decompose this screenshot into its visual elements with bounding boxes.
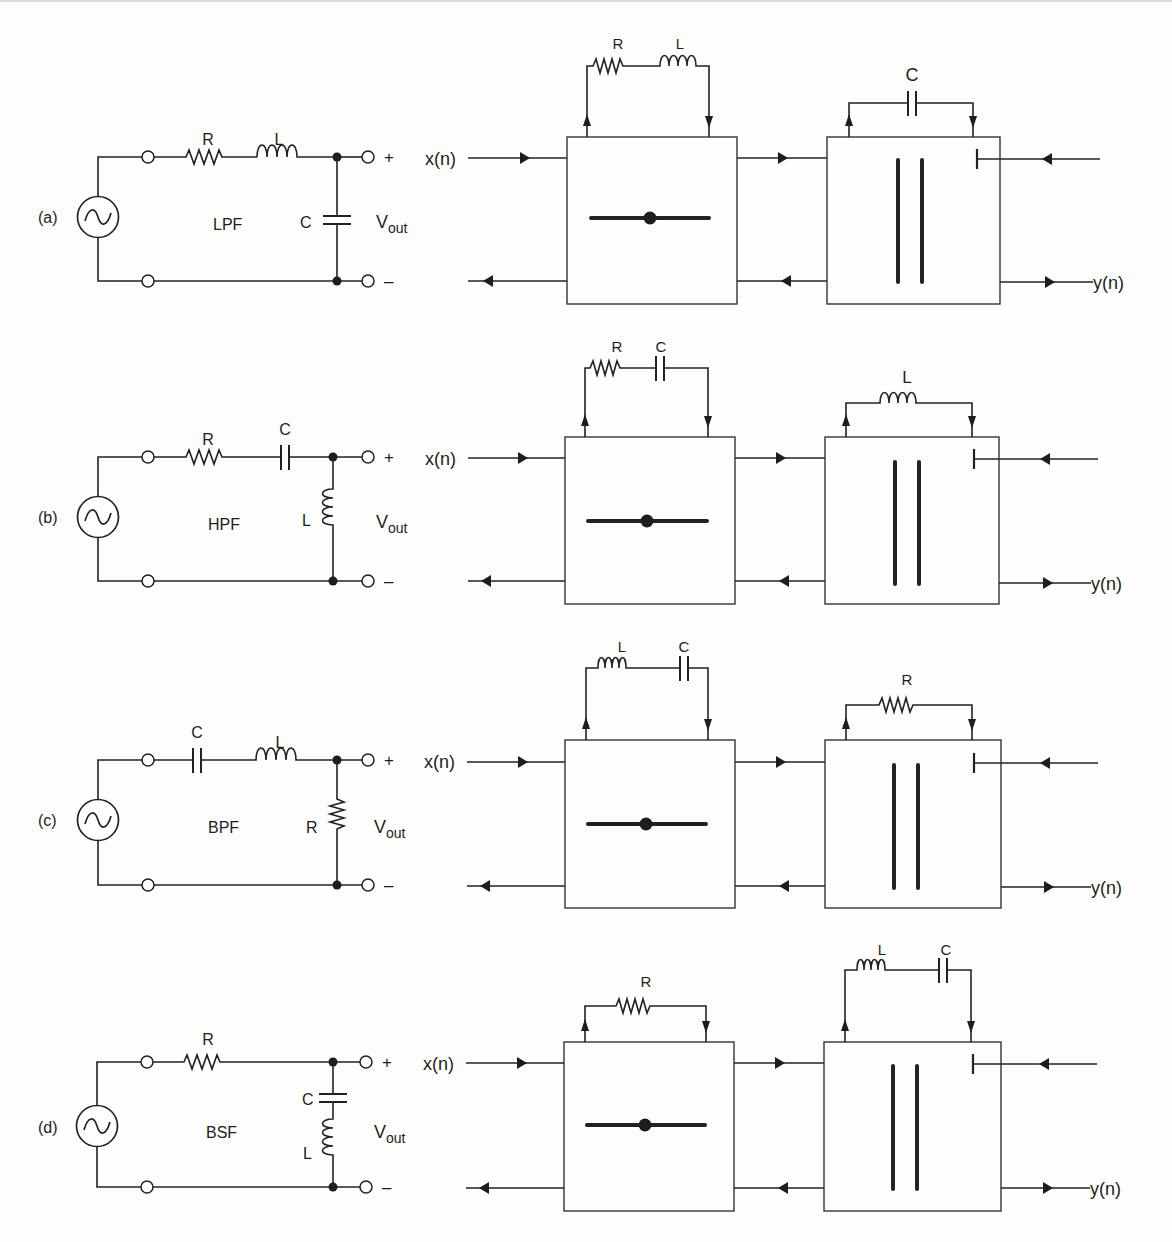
vout-label: Vout	[374, 1122, 406, 1146]
label-r: R	[202, 131, 214, 148]
plus-sign: +	[384, 751, 394, 770]
output-label: y(n)	[1091, 574, 1122, 594]
plus-sign: +	[382, 1053, 392, 1072]
input-label: x(n)	[425, 449, 456, 469]
inductor-icon	[257, 145, 337, 157]
label-l: L	[618, 638, 626, 655]
row-a: (a) R L LPF C + – Vout x(n)	[38, 35, 1124, 304]
filter-type-label: BPF	[208, 819, 239, 836]
row-d: (d) R BSF C L + – Vout x(n)	[38, 941, 1121, 1211]
row-tag: (c)	[38, 812, 57, 829]
filter-type-label: HPF	[208, 516, 240, 533]
ac-source-icon	[78, 197, 119, 238]
inductor-icon	[323, 1062, 334, 1187]
ac-source-icon	[78, 497, 119, 538]
input-terminal-bottom	[142, 275, 154, 287]
wave-digital-filter: x(n) y(n) R	[425, 338, 1122, 604]
vout-label: Vout	[374, 817, 406, 841]
row-tag: (d)	[38, 1119, 58, 1136]
label-l: L	[676, 35, 684, 52]
plus-sign: +	[384, 148, 394, 167]
minus-sign: –	[382, 1178, 392, 1197]
label-c: C	[300, 214, 312, 231]
ac-source-icon	[77, 1106, 118, 1147]
label-c: C	[679, 638, 690, 655]
label-r: R	[202, 1031, 214, 1048]
label-l: L	[902, 368, 911, 387]
wave-digital-filter: x(n) y(n) L	[424, 638, 1122, 908]
label-l: L	[303, 1145, 312, 1162]
wave-digital-filter: x(n) y(n) R	[423, 941, 1121, 1211]
label-l: L	[302, 512, 311, 529]
inductor-icon	[323, 457, 334, 581]
minus-sign: –	[384, 876, 394, 895]
row-c: (c) C L BPF R + – Vout x(n)	[38, 638, 1122, 908]
filter-type-label: BSF	[206, 1124, 237, 1141]
filter-type-label: LPF	[213, 216, 243, 233]
row-b: (b) R C HPF L + – Vout x(n)	[38, 338, 1122, 604]
label-c: C	[656, 338, 667, 355]
row-tag: (a)	[38, 209, 58, 226]
parallel-adaptor-box	[824, 1042, 1001, 1211]
label-c: C	[191, 724, 203, 741]
vout-label: Vout	[376, 512, 408, 536]
vout-label: Vout	[376, 212, 408, 236]
resistor-icon	[330, 760, 344, 885]
label-l: L	[276, 734, 285, 751]
label-r: R	[202, 431, 214, 448]
minus-sign: –	[384, 272, 394, 291]
label-l: L	[878, 941, 886, 958]
label-r: R	[641, 973, 652, 990]
label-r: R	[306, 819, 318, 836]
label-l: L	[275, 131, 284, 148]
wave-digital-filter: x(n) y(n) R L	[425, 35, 1124, 304]
resistor-icon	[154, 150, 257, 164]
output-label: y(n)	[1090, 1179, 1121, 1199]
row-tag: (b)	[38, 509, 58, 526]
label-c: C	[941, 941, 952, 958]
filter-figure: (a) R L LPF C + – Vout x(n)	[0, 0, 1172, 1242]
plus-sign: +	[384, 448, 394, 467]
parallel-adaptor-box	[827, 137, 1000, 304]
label-c: C	[302, 1091, 314, 1108]
ac-source-icon	[78, 800, 119, 841]
label-r: R	[612, 338, 623, 355]
input-terminal-top	[142, 151, 154, 163]
minus-sign: –	[384, 572, 394, 591]
output-label: y(n)	[1093, 273, 1124, 293]
label-r: R	[613, 35, 624, 52]
input-label: x(n)	[424, 752, 455, 772]
inductor-icon	[154, 748, 362, 760]
label-c: C	[906, 65, 919, 85]
output-label: y(n)	[1091, 878, 1122, 898]
input-label: x(n)	[425, 149, 456, 169]
label-c: C	[279, 421, 291, 438]
input-label: x(n)	[423, 1054, 454, 1074]
label-r: R	[902, 671, 913, 688]
